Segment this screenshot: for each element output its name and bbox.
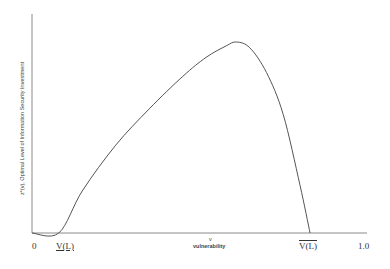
z-star-curve	[32, 42, 310, 236]
x-axis-symbol: v	[209, 236, 212, 242]
x-tick-lower-bound: V(L)	[56, 241, 74, 251]
x-tick-max: 1.0	[358, 241, 369, 251]
y-axis-title: z*(v), Optimal Level of Information Secu…	[19, 62, 25, 195]
x-tick-upper-bound: V(L)	[299, 241, 390, 251]
chart-canvas	[0, 0, 390, 269]
x-tick-upper-bound-label: V(L)	[299, 241, 317, 251]
x-axis-title: vulnerability	[193, 243, 225, 249]
x-tick-origin: 0	[32, 241, 37, 251]
